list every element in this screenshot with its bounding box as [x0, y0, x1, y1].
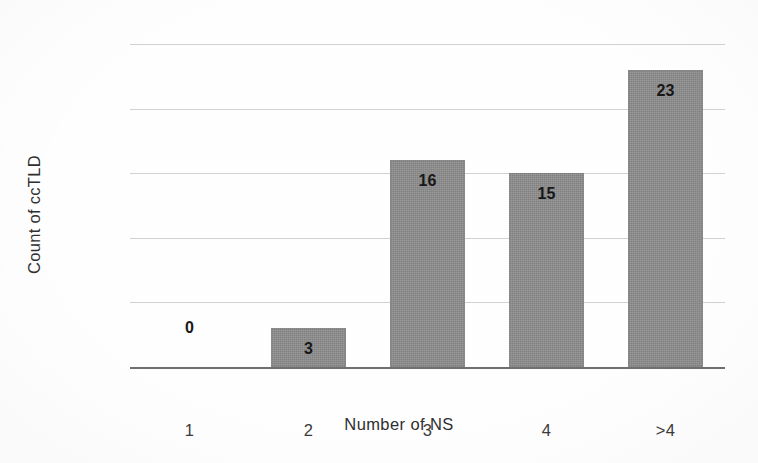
- bar-value-label-1: 0: [185, 319, 194, 337]
- x-axis-title: Number of NS: [0, 415, 758, 434]
- bar-value-label-3: 16: [419, 172, 437, 190]
- axis-baseline: [130, 367, 725, 369]
- bar-3: [390, 160, 465, 367]
- x-axis-title-text: Number of NS: [344, 415, 453, 433]
- bar-value-label->4: 23: [657, 82, 675, 100]
- bar-value-label-2: 3: [304, 340, 313, 358]
- bar-value-label-4: 15: [538, 185, 556, 203]
- bar->4: [628, 70, 703, 367]
- y-axis-title: Count of ccTLD: [25, 115, 44, 315]
- plot-area: 0510152025 03161523 1234>4: [130, 44, 725, 367]
- bar-series: 03161523: [130, 44, 725, 367]
- bar-chart-figure: Count of ccTLD 0510152025 03161523 1234>…: [0, 0, 758, 463]
